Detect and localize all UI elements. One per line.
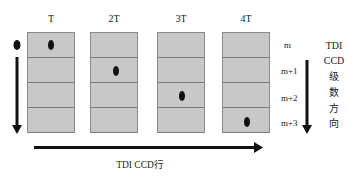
side-text-ji: 级 bbox=[319, 70, 349, 84]
row-label-m-plus-3: m+3 bbox=[281, 118, 298, 128]
side-text-tdi: TDI bbox=[319, 39, 349, 53]
row-label-m: m bbox=[284, 40, 291, 50]
arrows-layer bbox=[0, 0, 353, 177]
left-down-arrow-head bbox=[12, 125, 22, 134]
row-label-m-plus-1: m+1 bbox=[281, 66, 298, 76]
moving-object-dot bbox=[14, 40, 21, 50]
side-text-fang: 方 bbox=[319, 102, 349, 116]
stage-direction-arrow-head bbox=[302, 125, 312, 134]
side-text-shu: 数 bbox=[319, 86, 349, 100]
side-text-xiang: 向 bbox=[319, 117, 349, 131]
row-direction-label: TDI CCD行 bbox=[116, 157, 164, 171]
row-label-m-plus-2: m+2 bbox=[281, 93, 298, 103]
row-direction-arrow-head bbox=[254, 142, 263, 153]
side-text-ccd: CCD bbox=[319, 54, 349, 68]
